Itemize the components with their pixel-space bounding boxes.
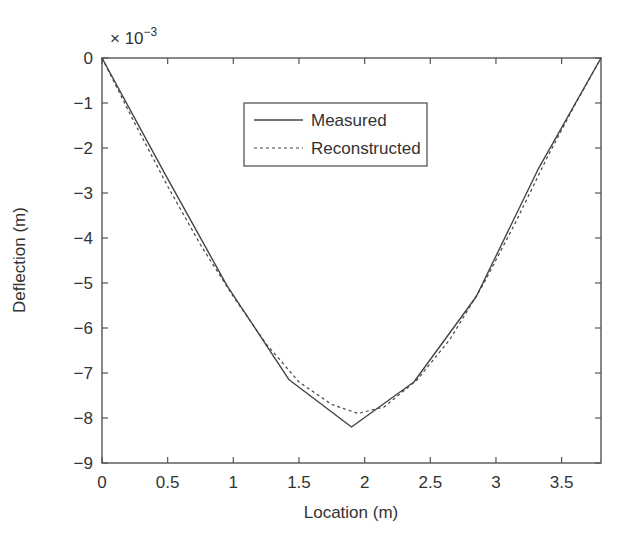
y-tick-label: −5	[74, 274, 93, 293]
x-tick-label: 3	[491, 473, 500, 492]
x-tick-label: 3.5	[550, 473, 574, 492]
x-axis-label: Location (m)	[304, 503, 398, 522]
y-axis-label: Deflection (m)	[10, 207, 29, 313]
legend-reconstructed-label: Reconstructed	[311, 139, 421, 158]
y-tick-label: −8	[74, 409, 93, 428]
legend-measured-label: Measured	[311, 111, 387, 130]
y-tick-label: −1	[74, 94, 93, 113]
y-tick-label: −4	[74, 229, 93, 248]
x-tick-label: 2.5	[418, 473, 442, 492]
y-tick-label: −9	[74, 454, 93, 473]
y-multiplier-exponent: −3	[144, 25, 158, 39]
x-tick-label: 0	[97, 473, 106, 492]
y-tick-label: −7	[74, 364, 93, 383]
legend: Measured Reconstructed	[244, 103, 427, 166]
x-tick-label: 1	[229, 473, 238, 492]
y-tick-label: 0	[84, 49, 93, 68]
x-tick-label: 0.5	[156, 473, 180, 492]
y-multiplier-base: × 10	[110, 29, 144, 48]
y-tick-label: −2	[74, 139, 93, 158]
y-multiplier-label: × 10−3	[110, 25, 158, 48]
y-tick-label: −3	[74, 184, 93, 203]
deflection-chart: 00.511.522.533.50−1−2−3−4−5−6−7−8−9 × 10…	[0, 0, 634, 548]
y-tick-label: −6	[74, 319, 93, 338]
x-tick-label: 2	[360, 473, 369, 492]
x-tick-label: 1.5	[287, 473, 311, 492]
